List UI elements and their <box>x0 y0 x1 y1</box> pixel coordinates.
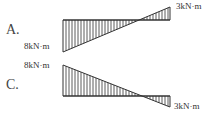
option-c-left-value: 8kN·m <box>24 60 50 70</box>
diagram-a <box>63 7 170 52</box>
option-c-label: C. <box>6 77 19 93</box>
diagram-c <box>63 65 170 107</box>
option-a-right-value: 3kN·m <box>176 1 202 11</box>
option-a-label: A. <box>6 22 20 38</box>
option-c-right-value: 3kN·m <box>174 101 200 111</box>
option-a-left-value: 8kN·m <box>24 41 50 51</box>
